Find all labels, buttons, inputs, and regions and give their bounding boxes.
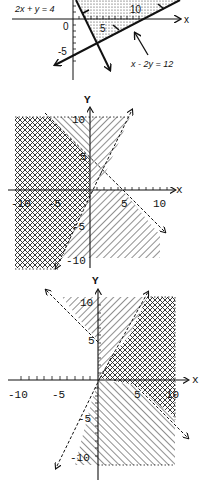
tick-label-y-neg10: -10 bbox=[70, 452, 90, 464]
graph-2: x Y -10 -5 5 10 10 5 -5 -10 bbox=[0, 80, 203, 275]
tick-label-y5: 5 bbox=[80, 151, 87, 163]
tick-label-x10: 10 bbox=[130, 4, 142, 15]
pointer-arrow bbox=[135, 33, 148, 55]
tick-label-x-neg10: -10 bbox=[8, 389, 28, 401]
graph-1-canvas: x 2x + y = 4 x - 2y = 12 0 5 10 -5 bbox=[0, 0, 203, 80]
tick-label-y5: 5 bbox=[88, 335, 95, 347]
y-axis-label: Y bbox=[84, 94, 91, 106]
tick-label-y-neg5: -5 bbox=[58, 46, 67, 57]
y-axis-label: Y bbox=[92, 275, 99, 287]
tick-label-x10: 10 bbox=[166, 389, 179, 401]
graph-2-canvas: x Y -10 -5 5 10 10 5 -5 -10 bbox=[0, 80, 203, 275]
graph-3: x Y -10 -5 5 10 10 5 -5 -10 bbox=[0, 275, 203, 485]
tick-label-x10: 10 bbox=[153, 198, 166, 210]
equation-label-x-minus-2y: x - 2y = 12 bbox=[130, 59, 173, 69]
graph-3-canvas: x Y -10 -5 5 10 10 5 -5 -10 bbox=[0, 275, 203, 485]
tick-label-y10: 10 bbox=[72, 114, 85, 126]
tick-label-origin: 0 bbox=[63, 21, 69, 32]
tick-label-y-neg10: -10 bbox=[66, 255, 86, 267]
x-axis-label: x bbox=[176, 184, 183, 196]
tick-label-x5: 5 bbox=[100, 23, 106, 34]
tick-label-y10: 10 bbox=[80, 297, 93, 309]
tick-label-x-neg5: -5 bbox=[48, 198, 61, 210]
equation-label-2x-plus-y: 2x + y = 4 bbox=[14, 4, 55, 14]
tick-label-y-neg5: -5 bbox=[72, 221, 85, 233]
tick-label-x5: 5 bbox=[134, 389, 141, 401]
tick-label-x-neg10: -10 bbox=[11, 198, 31, 210]
tick-label-x5: 5 bbox=[121, 198, 128, 210]
x-axis-label: x bbox=[192, 374, 199, 386]
x-axis-label: x bbox=[184, 14, 189, 25]
tick-label-y-neg5: -5 bbox=[78, 413, 91, 425]
graph-1: x 2x + y = 4 x - 2y = 12 0 5 10 -5 bbox=[0, 0, 203, 80]
tick-label-x-neg5: -5 bbox=[52, 389, 65, 401]
